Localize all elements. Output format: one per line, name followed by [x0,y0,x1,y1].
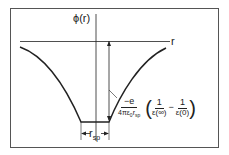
width-label: rsp [89,128,100,141]
leader-line [109,90,117,98]
potential-diagram [0,0,229,155]
depth-formula: −e 4πε0rsp ( 1 ε(∞) − 1 ε(0) ) [118,97,196,118]
y-axis-label: ϕ(r) [73,13,90,24]
frame [11,9,219,148]
x-axis-label: r [171,36,175,47]
